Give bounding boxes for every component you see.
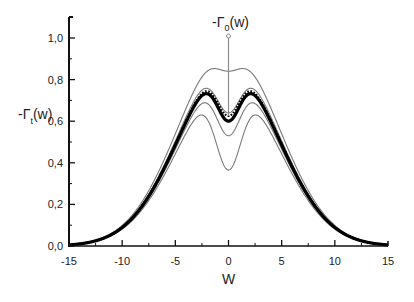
x-tick-label: 15 (382, 255, 394, 267)
series-curve-4 (69, 103, 388, 245)
annotation-arrow-tail (227, 34, 231, 38)
x-axis-title: W (222, 271, 236, 287)
y-tick-label: 0,2 (48, 198, 63, 210)
y-tick-label: 0,4 (48, 157, 63, 169)
x-tick-label: -5 (170, 255, 180, 267)
chart: -Γ0(w) -15-10-5051015 0,00,20,40,60,81,0… (0, 0, 414, 302)
series-curve-5 (69, 115, 388, 245)
y-axis-title-main: -Γ (18, 106, 31, 122)
x-tick-label: 10 (329, 255, 341, 267)
x-tick-label: 0 (225, 255, 231, 267)
x-tick-label: 5 (279, 255, 285, 267)
y-axis-title-tail: (w) (33, 106, 52, 122)
annotation-label-tail: (w) (229, 14, 248, 30)
x-tick-label: -15 (61, 255, 77, 267)
y-tick-label: 0,8 (48, 74, 63, 86)
y-tick-label: 1,0 (48, 32, 63, 44)
annotation-label: -Γ0(w) (212, 14, 249, 33)
x-tick-label: -10 (114, 255, 130, 267)
axes: -15-10-5051015 0,00,20,40,60,81,0 (48, 17, 394, 267)
x-ticks: -15-10-5051015 (61, 240, 394, 267)
y-ticks: 0,00,20,40,60,81,0 (48, 32, 75, 252)
annotation-label-main: -Γ (212, 14, 225, 30)
y-tick-label: 0,0 (48, 240, 63, 252)
